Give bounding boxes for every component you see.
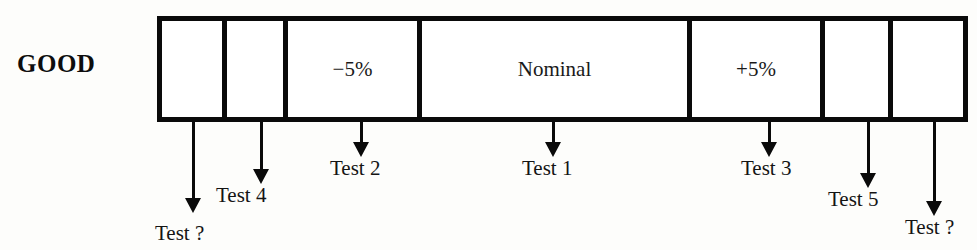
- cell-plus-5: +5%: [692, 21, 825, 117]
- arrow-shaft: [360, 122, 363, 142]
- diagram-canvas: GOOD −5%Nominal+5% Test ?Test 4Test 2Tes…: [0, 0, 977, 250]
- pointer-test-unknown-right-label: Test ?: [905, 215, 954, 240]
- cell-label: +5%: [736, 57, 776, 82]
- arrow-shaft: [192, 122, 195, 198]
- arrow-head-down-icon: [926, 201, 942, 216]
- arrow-head-down-icon: [353, 142, 369, 157]
- arrow-head-down-icon: [761, 142, 777, 157]
- arrow-shaft: [768, 122, 771, 142]
- arrow-head-down-icon: [860, 173, 876, 188]
- arrow-head-down-icon: [185, 198, 201, 213]
- cell-minus-5: −5%: [288, 21, 422, 117]
- pointer-test-4-label: Test 4: [216, 183, 266, 208]
- good-axis-label: GOOD: [17, 50, 95, 78]
- cell-blank-left-inner: [227, 21, 288, 117]
- cell-label: −5%: [333, 57, 373, 82]
- cell-blank-left-outer: [162, 21, 227, 117]
- pointer-test-5-label: Test 5: [828, 187, 878, 212]
- cell-nominal: Nominal: [422, 21, 692, 117]
- cell-label: Nominal: [518, 57, 592, 82]
- arrow-head-down-icon: [545, 142, 561, 157]
- cell-blank-right-inner: [825, 21, 893, 117]
- pointer-test-1-label: Test 1: [522, 156, 572, 181]
- arrow-shaft: [260, 122, 263, 169]
- tolerance-band-bar: −5%Nominal+5%: [157, 16, 968, 122]
- arrow-shaft: [552, 122, 555, 142]
- pointer-test-2-label: Test 2: [330, 156, 380, 181]
- arrow-head-down-icon: [253, 169, 269, 184]
- pointer-test-unknown-left-label: Test ?: [155, 221, 204, 246]
- cell-blank-right-outer: [893, 21, 963, 117]
- pointer-test-3-label: Test 3: [741, 156, 791, 181]
- arrow-shaft: [867, 122, 870, 173]
- arrow-shaft: [933, 122, 936, 201]
